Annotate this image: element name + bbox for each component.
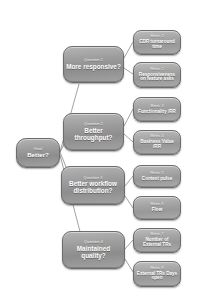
node-question-2-label: Better throughput? [64,128,123,142]
node-question-1-label: More responsive? [64,64,123,71]
node-metric-6-label: Flow [150,208,164,213]
edge-question-2-metric-3 [124,109,133,126]
node-metric-7[interactable]: Metric 7 Number of External TRs [133,228,181,253]
node-metric-5-kicker: Metric 5 [151,172,164,176]
node-question-4-kicker: Question 4 [84,240,103,244]
node-goal-label: Better? [25,152,51,159]
node-goal[interactable]: Goal Better? [16,138,60,168]
node-metric-3-kicker: Metric 3 [151,105,164,109]
edge-question-3-metric-5 [125,176,133,186]
node-question-1[interactable]: Question 1 More responsive? [63,46,124,83]
node-metric-8[interactable]: Metric 8 External TRs Days open [133,261,181,287]
node-question-3-label: Better workflow distribution? [62,181,124,195]
node-metric-3-label: Functionality /RR [136,110,178,115]
edge-question-1-metric-1 [124,42,133,58]
node-metric-8-kicker: Metric 8 [151,267,164,271]
edge-question-1-metric-2 [124,68,133,74]
node-question-4[interactable]: Question 4 Maintained quality? [62,231,125,269]
node-metric-2-label: Responsiveness on feature asks [134,73,180,83]
node-metric-8-label: External TRs Days open [134,272,180,282]
node-metric-7-label: Number of External TRs [134,238,180,248]
diagram-canvas: Goal Better? Question 1 More responsive?… [0,0,197,308]
node-metric-5[interactable]: Metric 5 Context pulse [133,165,181,188]
node-metric-1-label: CDR turnaround time [134,40,180,50]
node-metric-4[interactable]: Metric 4 Business Value /RR [133,130,181,155]
node-question-3[interactable]: Question 3 Better workflow distribution? [61,166,125,205]
node-metric-5-label: Context pulse [140,177,174,182]
edge-question-4-metric-8 [125,259,133,272]
node-metric-1[interactable]: Metric 1 CDR turnaround time [133,30,181,55]
node-question-2[interactable]: Question 2 Better throughput? [63,113,124,151]
node-question-1-kicker: Question 1 [84,58,103,62]
edge-question-2-metric-4 [124,134,133,142]
node-question-4-label: Maintained quality? [63,246,124,260]
node-metric-2[interactable]: Metric 2 Responsiveness on feature asks [133,62,181,88]
edge-question-4-metric-7 [125,240,133,249]
node-metric-2-kicker: Metric 2 [151,68,164,72]
node-metric-3[interactable]: Metric 3 Functionality /RR [133,97,181,122]
node-metric-6[interactable]: Metric 6 Flow [133,196,181,220]
node-question-2-kicker: Question 2 [84,122,103,126]
node-metric-4-label: Business Value /RR [134,140,180,150]
edge-question-3-metric-6 [125,196,133,208]
